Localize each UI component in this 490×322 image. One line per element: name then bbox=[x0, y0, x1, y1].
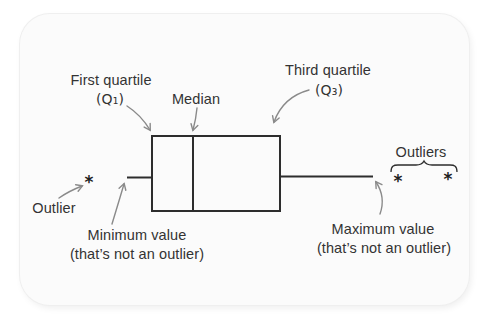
iqr-box bbox=[152, 136, 280, 211]
minimum-label-line2: (that’s not an outlier) bbox=[70, 246, 204, 262]
third-quartile-symbol: (Q₃) bbox=[315, 82, 343, 98]
first-quartile-arrow bbox=[127, 106, 150, 130]
minimum-label-line1: Minimum value bbox=[88, 227, 187, 243]
outlier-arrow bbox=[59, 186, 82, 198]
maximum-label-line2: (that’s not an outlier) bbox=[317, 240, 451, 256]
median-arrow bbox=[193, 108, 197, 130]
boxplot-diagram: * * * First quartile (Q₁) Median Third q… bbox=[0, 0, 490, 322]
minimum-arrow bbox=[112, 184, 124, 224]
third-quartile-label: Third quartile bbox=[285, 62, 371, 78]
annotation-labels: First quartile (Q₁) Median Third quartil… bbox=[32, 62, 451, 262]
median-label: Median bbox=[172, 91, 220, 107]
boxplot-anatomy-figure: * * * First quartile (Q₁) Median Third q… bbox=[0, 0, 490, 322]
first-quartile-symbol: (Q₁) bbox=[96, 91, 124, 107]
outlier-asterisk-left: * bbox=[85, 172, 94, 192]
outlier-asterisk-right-1: * bbox=[394, 171, 403, 191]
outlier-asterisk-right-2: * bbox=[444, 169, 453, 189]
boxplot-shape bbox=[127, 136, 373, 211]
third-quartile-arrow bbox=[274, 90, 309, 122]
outliers-label: Outliers bbox=[396, 144, 447, 160]
maximum-label-line1: Maximum value bbox=[332, 221, 435, 237]
outlier-label: Outlier bbox=[32, 200, 75, 216]
maximum-arrow bbox=[376, 182, 382, 214]
first-quartile-label: First quartile bbox=[70, 72, 151, 88]
annotation-arrows bbox=[59, 90, 382, 224]
